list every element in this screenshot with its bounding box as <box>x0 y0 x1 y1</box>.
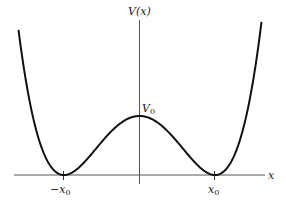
y-axis-label: V(x) <box>128 5 151 18</box>
double-well-diagram: V(x) x V0 −x0 x0 <box>0 0 286 203</box>
left-min-label: −x0 <box>50 183 71 197</box>
x-axis-label: x <box>268 169 275 182</box>
right-min-label: x0 <box>208 183 219 197</box>
peak-label: V0 <box>142 102 155 116</box>
